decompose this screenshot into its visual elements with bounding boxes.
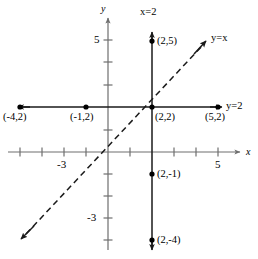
point-label-2-5: (2,5) [157,36,177,47]
y-tick-label-minus3: -3 [87,212,96,223]
point-marker [149,171,154,176]
x-axis-label: x [246,147,250,157]
y-axis-label: y [101,4,105,14]
point-label-2-neg4: (2,-4) [157,235,181,246]
coordinate-plane-figure: x y -3 5 5 -3 x=2 y=2 y=x (-4,2) (-1,2) … [0,0,258,259]
point-marker [149,237,154,242]
data-points [17,38,220,242]
point-label-5-2: (5,2) [205,112,225,123]
point-marker [83,104,88,109]
point-marker [149,38,154,43]
line-label-y-equals-2: y=2 [226,101,242,112]
line-y-equals-x [21,41,206,239]
point-marker [149,104,154,109]
point-label-neg4-2: (-4,2) [3,112,27,123]
point-label-neg1-2: (-1,2) [70,112,94,123]
x-tick-label-5: 5 [215,159,221,170]
y-axis [104,18,113,250]
point-marker [17,104,22,109]
line-label-x-equals-2: x=2 [140,7,156,18]
x-axis [8,148,240,157]
x-tick-label-minus3: -3 [57,159,66,170]
y-tick-label-5: 5 [94,34,100,45]
line-label-y-equals-x: y=x [211,33,227,44]
point-marker [215,104,220,109]
point-label-2-neg1: (2,-1) [157,169,181,180]
point-label-2-2: (2,2) [155,112,175,123]
